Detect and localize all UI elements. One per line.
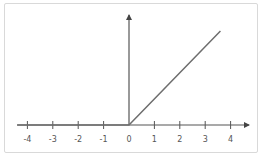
series-line: [17, 31, 220, 125]
x-tick-label: 3: [203, 135, 208, 144]
relu-line: [17, 31, 220, 125]
x-tick-label: 1: [152, 135, 157, 144]
x-tick-label: 4: [228, 135, 233, 144]
x-tick-label: 2: [177, 135, 182, 144]
x-tick-label: -3: [49, 135, 57, 144]
relu-chart: -4-3-2-101234: [0, 0, 266, 161]
x-tick-label: 0: [126, 135, 131, 144]
x-tick-label: -4: [23, 135, 31, 144]
x-tick-label: -2: [74, 135, 82, 144]
x-tick-label: -1: [100, 135, 108, 144]
